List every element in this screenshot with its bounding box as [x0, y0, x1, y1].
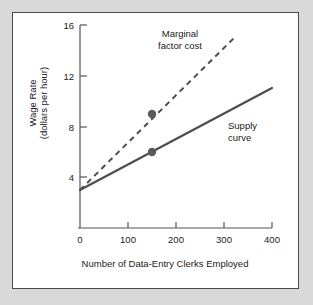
- mfc-label-line2: factor cost: [145, 40, 215, 52]
- y-tick-label-8: 8: [50, 122, 74, 133]
- y-axis-title-line1: Wage Rate: [27, 43, 38, 163]
- data-point-supply: [148, 148, 156, 156]
- y-tick-label-4: 4: [50, 172, 74, 183]
- y-axis-title: Wage Rate (dollars per hour): [27, 43, 49, 163]
- x-tick-label-400: 400: [257, 234, 287, 245]
- supply-label-line1: Supply: [228, 120, 288, 132]
- x-tick-label-300: 300: [209, 234, 239, 245]
- y-tick-label-16: 16: [50, 20, 74, 31]
- chart-figure: 16 12 8 4 0 100 200 300 400 Wage Rate (d…: [0, 0, 313, 305]
- supply-curve-label: Supply curve: [228, 120, 288, 143]
- marginal-factor-cost-line: [80, 38, 234, 190]
- supply-label-line2: curve: [228, 132, 288, 144]
- y-tick-label-12: 12: [50, 71, 74, 82]
- marginal-factor-cost-label: Marginal factor cost: [145, 28, 215, 51]
- x-tick-label-200: 200: [161, 234, 191, 245]
- mfc-label-line1: Marginal: [145, 28, 215, 40]
- x-tick-label-100: 100: [113, 234, 143, 245]
- x-axis-title: Number of Data-Entry Clerks Employed: [40, 258, 290, 269]
- x-tick-label-0: 0: [65, 234, 95, 245]
- data-point-mfc: [148, 110, 156, 118]
- y-axis-title-line2: (dollars per hour): [38, 43, 49, 163]
